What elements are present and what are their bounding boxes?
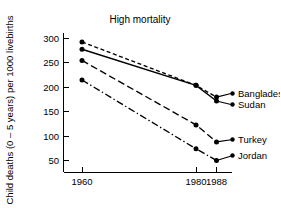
chart-container: High mortality Child deaths (0 – 5 years… [0,0,280,208]
data-point-jordan [194,146,199,151]
series-label-bangladesh: Bangladesh [238,88,280,99]
label-anchor-dot-sudan [230,102,234,106]
series-label-jordan: Jordan [238,150,267,161]
x-tick-group: 196019801988 [71,167,227,188]
data-point-bangladesh [80,39,85,44]
y-axis-title: Child deaths (0 – 5 years) per 1000 live… [4,15,15,204]
x-tick-label: 1980 [185,176,206,187]
leader-line-sudan [217,101,232,105]
y-axis: 50100150200250300 [43,33,69,172]
data-point-sudan [80,47,85,52]
series-sudan [80,47,220,104]
series-label-sudan: Sudan [238,99,265,110]
label-anchor-dot-bangladesh [230,91,234,95]
y-tick-label: 150 [43,106,59,117]
data-point-sudan [194,83,199,88]
series-line-sudan [82,49,217,101]
y-tick-label: 100 [43,131,59,142]
data-point-jordan [80,77,85,82]
x-axis: 196019801988 [64,167,233,188]
x-tick-label: 1988 [206,176,227,187]
leader-line-bangladesh [217,94,232,98]
series-label-turkey: Turkey [238,134,267,145]
y-tick-label: 300 [43,33,59,44]
series-group [80,39,220,163]
data-point-turkey [194,122,199,127]
series-line-turkey [82,60,217,142]
series-jordan [80,77,220,163]
series-label-group: BangladeshSudanTurkeyJordan [217,88,281,161]
series-bangladesh [80,39,220,99]
label-anchor-dot-jordan [230,153,234,157]
y-tick-label: 200 [43,82,59,93]
y-tick-group: 50100150200250300 [43,33,69,166]
label-anchor-dot-turkey [230,137,234,141]
data-point-turkey [80,58,85,63]
series-line-bangladesh [82,42,217,97]
x-tick-label: 1960 [71,176,92,187]
mortality-line-chart: High mortality Child deaths (0 – 5 years… [0,0,280,208]
chart-title: High mortality [109,14,170,25]
y-tick-label: 250 [43,57,59,68]
y-tick-label: 50 [48,155,59,166]
